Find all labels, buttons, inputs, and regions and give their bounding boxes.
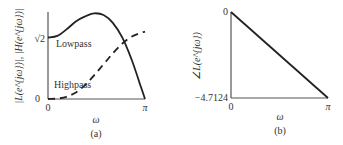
a-x-tick-label: 0 bbox=[46, 102, 51, 113]
a-y-tick-label: √2 bbox=[35, 33, 46, 44]
b-x-tick-label: 0 bbox=[229, 101, 234, 112]
figure: 0 √2 0 π ω (a) Lowpass Highpass |L(e^{jω… bbox=[0, 0, 343, 145]
a-y-tick-label: 0 bbox=[35, 93, 40, 104]
panel-b: 0 −4.7124 0 π ω (b) ∠L(e^{jω}) bbox=[191, 6, 331, 137]
a-x-tick-label: π bbox=[142, 102, 148, 113]
a-x-axis-label: ω bbox=[92, 114, 99, 125]
lowpass-annotation: Lowpass bbox=[56, 38, 92, 49]
a-panel-label: (a) bbox=[90, 128, 101, 140]
b-y-axis-label: ∠L(e^{jω}) bbox=[191, 31, 203, 79]
b-panel-label: (b) bbox=[274, 125, 286, 137]
b-x-axis-label: ω bbox=[276, 111, 283, 122]
b-y-tick-label: −4.7124 bbox=[195, 92, 228, 103]
phase-curve bbox=[231, 12, 328, 98]
panel-a: 0 √2 0 π ω (a) Lowpass Highpass |L(e^{jω… bbox=[13, 8, 148, 140]
highpass-annotation: Highpass bbox=[54, 79, 91, 90]
b-x-tick-label: π bbox=[325, 101, 331, 112]
b-y-tick-label: 0 bbox=[223, 6, 228, 17]
a-y-axis-label: |L(e^{jω})|, |H(e^{jω})| bbox=[13, 8, 25, 103]
